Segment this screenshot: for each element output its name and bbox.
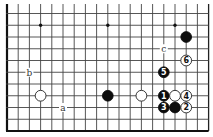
star-point (106, 24, 109, 27)
move-number: 6 (183, 56, 189, 65)
black-stone-icon (181, 32, 192, 43)
move-number: 5 (161, 68, 167, 77)
black-stone-icon (102, 90, 113, 101)
white-stone-icon (170, 90, 181, 101)
black-stone (102, 90, 113, 101)
white-stone (170, 90, 181, 101)
white-stone-icon (35, 90, 46, 101)
move-number: 1 (161, 92, 167, 101)
point-label-a: a (59, 103, 67, 113)
white-stone-4: 4 (181, 90, 192, 101)
white-stone (136, 90, 147, 101)
star-point (173, 24, 176, 27)
white-stone-icon (136, 90, 147, 101)
point-label-text: c (161, 44, 166, 54)
white-stone (35, 90, 46, 101)
white-stone-2: 2 (181, 102, 192, 113)
point-label-c: c (160, 44, 168, 54)
point-label-text: b (27, 68, 33, 78)
black-stone (181, 32, 192, 43)
black-stone-icon (170, 102, 181, 113)
star-point (39, 24, 42, 27)
go-board-diagram: abc 651432 (0, 0, 213, 137)
black-stone (170, 102, 181, 113)
point-label-b: b (25, 68, 33, 78)
black-stone-1: 1 (158, 90, 169, 101)
move-number: 3 (161, 103, 167, 112)
point-label-text: a (60, 103, 66, 113)
white-stone-6: 6 (181, 55, 192, 66)
move-number: 2 (183, 103, 189, 112)
black-stone-5: 5 (158, 67, 169, 78)
black-stone-3: 3 (158, 102, 169, 113)
move-number: 4 (183, 92, 189, 101)
